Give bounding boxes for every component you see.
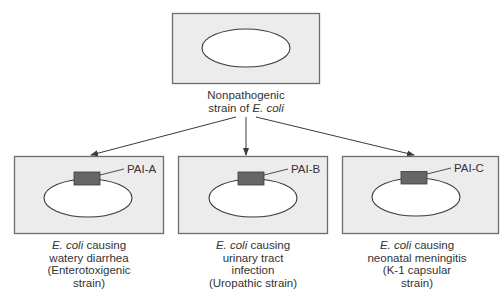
caption-line4: (Uropathic strain) xyxy=(178,277,328,290)
caption-line2: neonatal meningitis xyxy=(342,252,492,265)
nonpathogenic-label: Nonpathogenic strain of E. coli xyxy=(171,89,321,114)
pai-b-label: PAI-B xyxy=(291,163,320,175)
caption-text: causing xyxy=(83,239,126,251)
arrow-to-enterotoxigenic xyxy=(91,117,236,155)
species-name: E. coli xyxy=(252,102,283,114)
caption-line3: (Enterotoxigenic xyxy=(14,264,164,277)
pai-a-block xyxy=(74,172,100,185)
nonpathogenic-label-line2: strain of E. coli xyxy=(171,102,321,115)
nonpathogenic-strain-cell xyxy=(173,14,320,84)
caption-line4: strain) xyxy=(14,277,164,290)
pai-a-label: PAI-A xyxy=(127,163,156,175)
caption-line4: strain) xyxy=(342,277,492,290)
caption-line2: watery diarrhea xyxy=(14,252,164,265)
enterotoxigenic-caption: E. coli causing watery diarrhea (Enterot… xyxy=(14,239,164,289)
caption-line1: E. coli causing xyxy=(178,239,328,252)
pai-c-label: PAI-C xyxy=(454,162,484,174)
uropathic-caption: E. coli causing urinary tract infection … xyxy=(178,239,328,289)
arrow-to-k1-capsular xyxy=(256,117,414,155)
caption-line1: E. coli causing xyxy=(14,239,164,252)
species-name: E. coli xyxy=(52,239,83,251)
caption-text: causing xyxy=(411,239,454,251)
species-name: E. coli xyxy=(216,239,247,251)
chromosome-ellipse xyxy=(202,29,290,67)
pai-c-block xyxy=(401,172,427,185)
nonpathogenic-label-line1: Nonpathogenic xyxy=(171,89,321,102)
k1-capsular-caption: E. coli causing neonatal meningitis (K-1… xyxy=(342,239,492,289)
caption-line3: infection xyxy=(178,264,328,277)
caption-line2: urinary tract xyxy=(178,252,328,265)
pai-b-block xyxy=(238,172,264,185)
label-text: strain of xyxy=(208,102,252,114)
species-name: E. coli xyxy=(380,239,411,251)
caption-text: causing xyxy=(247,239,290,251)
caption-line3: (K-1 capsular xyxy=(342,264,492,277)
caption-line1: E. coli causing xyxy=(342,239,492,252)
